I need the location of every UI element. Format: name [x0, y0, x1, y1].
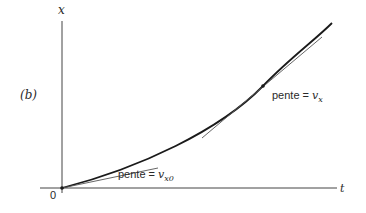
horizontal-axis-label: t — [340, 182, 344, 195]
tangent-point-marker — [261, 84, 265, 88]
position-curve — [62, 23, 332, 188]
slope-prefix: pente = — [272, 89, 312, 101]
vertical-axis-label: x — [58, 3, 65, 17]
position-time-diagram — [0, 0, 366, 213]
tangent-at-point — [202, 37, 322, 138]
slope-prefix: pente = — [118, 168, 158, 180]
velocity-subscript: x — [318, 95, 323, 104]
origin-label: 0 — [50, 189, 56, 201]
slope-at-origin-annotation: pente = vx0 — [118, 168, 174, 183]
origin-marker — [60, 186, 64, 190]
velocity-subscript: x0 — [164, 174, 174, 183]
slope-at-point-annotation: pente = vx — [272, 89, 323, 104]
panel-label: (b) — [20, 88, 37, 102]
